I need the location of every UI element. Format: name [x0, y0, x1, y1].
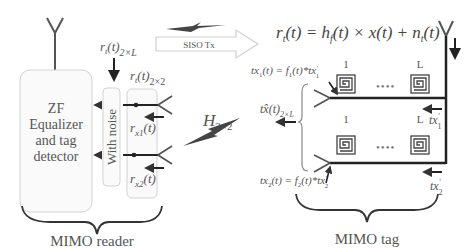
zf-label-line-3: and tag	[36, 133, 77, 148]
tag-element-icon	[337, 136, 355, 154]
row1-dots: ••••	[376, 80, 395, 92]
row1-last-index: L	[417, 58, 424, 70]
txhat-2xL-label: tx̂(t)2×L	[260, 102, 294, 119]
row2-first-index: 1	[343, 113, 349, 125]
reader-caption: MIMO reader	[50, 233, 134, 249]
wireless-signal-icon	[166, 22, 226, 32]
with-noise-label: With noise	[104, 109, 119, 165]
tag-brace	[296, 194, 438, 222]
zf-label-line-1: ZF	[48, 101, 65, 116]
signal-equation: rt(t) = hf(t) × x(t) + nt(t)	[276, 23, 440, 44]
tx1-equation: tx1(t) = f1(t)*tx'1	[251, 64, 320, 80]
tag-antenna-icon	[439, 21, 453, 36]
siso-tx-label: SISO Tx	[183, 40, 215, 50]
zf-label-line-4: detector	[33, 149, 78, 164]
tag-element-icon	[411, 75, 429, 93]
tag-caption: MIMO tag	[335, 231, 400, 247]
row1-first-index: 1	[343, 58, 349, 70]
channel: SISO Tx H2×2	[156, 22, 258, 146]
mimo-reader: ZF Equalizer and tag detector With noise…	[20, 18, 172, 249]
txp2-label: tx'2	[430, 178, 442, 197]
rt-2xL-label: rt(t)2×L	[100, 39, 137, 58]
mimo-backscatter-diagram: ZF Equalizer and tag detector With noise…	[0, 0, 473, 249]
txp1-label: tx'1	[429, 112, 441, 131]
tag-element-icon	[411, 136, 429, 154]
row2-dots: ••••	[376, 141, 395, 153]
txhat-brace	[298, 84, 308, 171]
mimo-tag: •••• 1 L •••• 1 L tx'1 tx'2 tx1(t) = f1(…	[251, 21, 455, 247]
rt-2x2-label: rt(t)2×2	[130, 68, 165, 87]
zf-label-line-2: Equalizer	[29, 117, 83, 132]
tag-element-icon	[337, 75, 355, 93]
tx2-equation: tx2(t) = f2(t)*tx'2	[260, 174, 329, 190]
row2-last-index: L	[417, 113, 424, 125]
arrow-icon	[329, 82, 337, 94]
reader-antenna-icon	[47, 18, 63, 70]
